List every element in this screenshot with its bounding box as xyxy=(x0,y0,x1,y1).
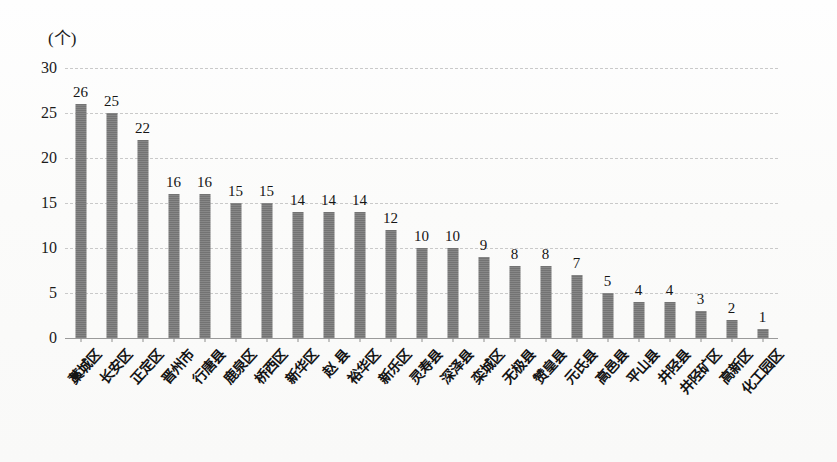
bar xyxy=(75,104,86,338)
x-tickmark xyxy=(638,338,639,342)
x-tickmark xyxy=(421,338,422,342)
bar xyxy=(106,113,117,338)
x-tickmark xyxy=(514,338,515,342)
x-tickmark xyxy=(452,338,453,342)
y-tick-label: 0 xyxy=(27,329,57,347)
x-tickmark xyxy=(266,338,267,342)
bar-value-label: 10 xyxy=(445,228,460,245)
bar-slot: 22 xyxy=(127,68,158,338)
bar-slot: 4 xyxy=(623,68,654,338)
bar-value-label: 25 xyxy=(104,93,119,110)
bar xyxy=(695,311,706,338)
bar-value-label: 14 xyxy=(352,192,367,209)
bar-value-label: 16 xyxy=(166,174,181,191)
x-tickmark xyxy=(483,338,484,342)
bar-slot: 4 xyxy=(654,68,685,338)
bar xyxy=(664,302,675,338)
x-tickmark xyxy=(173,338,174,342)
bar xyxy=(137,140,148,338)
bar-slot: 10 xyxy=(437,68,468,338)
x-tickmark xyxy=(700,338,701,342)
bar-slot: 26 xyxy=(65,68,96,338)
bar xyxy=(416,248,427,338)
bar xyxy=(199,194,210,338)
x-tickmark xyxy=(359,338,360,342)
bar xyxy=(602,293,613,338)
bar-slot: 3 xyxy=(685,68,716,338)
bar-slot: 14 xyxy=(344,68,375,338)
bar-value-label: 4 xyxy=(666,282,674,299)
bar-chart: (个) 051015202530 26252216161515141414121… xyxy=(0,0,837,462)
y-tick-label: 25 xyxy=(27,104,57,122)
bar-value-label: 14 xyxy=(321,192,336,209)
bar-value-label: 15 xyxy=(228,183,243,200)
y-tick-label: 5 xyxy=(27,284,57,302)
bar-value-label: 3 xyxy=(697,291,705,308)
x-tickmark xyxy=(545,338,546,342)
y-tick-label: 30 xyxy=(27,59,57,77)
bar xyxy=(168,194,179,338)
bar xyxy=(354,212,365,338)
bar-value-label: 7 xyxy=(573,255,581,272)
bar-value-label: 9 xyxy=(480,237,488,254)
y-axis-tick-labels: 051015202530 xyxy=(25,68,57,338)
bar xyxy=(478,257,489,338)
bar-value-label: 22 xyxy=(135,120,150,137)
x-tickmark xyxy=(204,338,205,342)
bar-value-label: 4 xyxy=(635,282,643,299)
bar-value-label: 5 xyxy=(604,273,612,290)
x-tickmark xyxy=(235,338,236,342)
bar-value-label: 15 xyxy=(259,183,274,200)
bar-slot: 7 xyxy=(561,68,592,338)
x-axis-tick-labels: 藁城区长安区正定区晋州市行唐县鹿泉区桥西区新华区赵 县裕华区新乐区灵寿县深泽县栾… xyxy=(65,344,778,459)
bar-value-label: 10 xyxy=(414,228,429,245)
bar-slot: 10 xyxy=(406,68,437,338)
bar xyxy=(757,329,768,338)
y-tick-label: 10 xyxy=(27,239,57,257)
x-tickmark xyxy=(762,338,763,342)
y-tick-label: 15 xyxy=(27,194,57,212)
bar xyxy=(230,203,241,338)
bar xyxy=(633,302,644,338)
bar-value-label: 8 xyxy=(511,246,519,263)
bar-slot: 8 xyxy=(530,68,561,338)
bar-slot: 15 xyxy=(220,68,251,338)
x-tickmark xyxy=(390,338,391,342)
x-tickmark xyxy=(297,338,298,342)
x-tickmark xyxy=(669,338,670,342)
x-tickmark xyxy=(731,338,732,342)
bar-value-label: 16 xyxy=(197,174,212,191)
bar-slot: 14 xyxy=(313,68,344,338)
bar-slot: 1 xyxy=(747,68,778,338)
plot-area: 262522161615151414141210109887544321 xyxy=(65,68,778,338)
y-axis-unit-label: (个) xyxy=(48,24,76,49)
bar-series: 262522161615151414141210109887544321 xyxy=(65,68,778,338)
bar-value-label: 26 xyxy=(73,84,88,101)
bar-slot: 14 xyxy=(282,68,313,338)
x-tickmark xyxy=(328,338,329,342)
bar xyxy=(540,266,551,338)
bar xyxy=(726,320,737,338)
bar xyxy=(323,212,334,338)
bar-slot: 5 xyxy=(592,68,623,338)
bar-slot: 16 xyxy=(158,68,189,338)
bar xyxy=(509,266,520,338)
bar-slot: 15 xyxy=(251,68,282,338)
x-tickmark xyxy=(576,338,577,342)
x-tickmark xyxy=(142,338,143,342)
bar-value-label: 14 xyxy=(290,192,305,209)
bar-slot: 9 xyxy=(468,68,499,338)
bar xyxy=(571,275,582,338)
x-tickmark xyxy=(607,338,608,342)
y-tick-label: 20 xyxy=(27,149,57,167)
x-tickmark xyxy=(111,338,112,342)
bar-slot: 16 xyxy=(189,68,220,338)
bar xyxy=(385,230,396,338)
bar xyxy=(292,212,303,338)
bar-value-label: 8 xyxy=(542,246,550,263)
bar-value-label: 2 xyxy=(728,300,736,317)
bar-value-label: 12 xyxy=(383,210,398,227)
bar xyxy=(261,203,272,338)
bar-value-label: 1 xyxy=(759,309,767,326)
bar-slot: 12 xyxy=(375,68,406,338)
